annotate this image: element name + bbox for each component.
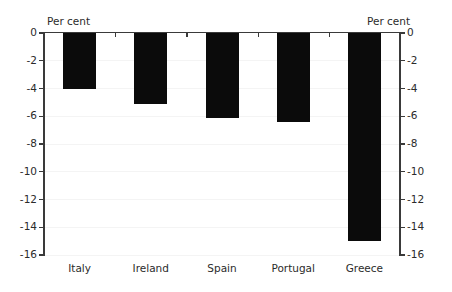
y-axis-tick-right — [401, 171, 405, 172]
category-label-portugal: Portugal — [258, 262, 329, 274]
y-axis-tick-label-left: -4 — [0, 83, 37, 94]
y-axis-tick-right — [401, 88, 405, 89]
y-axis-tick-label-right: -8 — [407, 138, 447, 149]
left-axis-spine — [43, 32, 45, 256]
right-axis-unit-label: Per cent — [367, 15, 410, 27]
y-axis-tick-right — [401, 116, 405, 117]
x-axis-tick — [186, 33, 187, 37]
category-label-greece: Greece — [329, 262, 400, 274]
y-axis-tick-right — [401, 227, 405, 228]
y-axis-tick-label-left: -12 — [0, 194, 37, 205]
y-axis-tick-label-right: -14 — [407, 221, 447, 232]
y-axis-tick-label-right: -2 — [407, 55, 447, 66]
y-axis-tick-label-left: -16 — [0, 249, 37, 260]
category-label-italy: Italy — [44, 262, 115, 274]
bar-italy — [63, 33, 96, 89]
y-axis-tick-label-right: -4 — [407, 83, 447, 94]
left-axis-unit-label: Per cent — [47, 15, 90, 27]
gridline — [44, 171, 400, 172]
category-label-ireland: Ireland — [115, 262, 186, 274]
y-axis-tick-right — [401, 60, 405, 61]
x-axis-tick — [115, 33, 116, 37]
gridline — [44, 144, 400, 145]
y-axis-tick-label-right: -10 — [407, 166, 447, 177]
y-axis-tick-label-right: -6 — [407, 110, 447, 121]
bar-chart: Per cent Per cent 00-2-2-4-4-6-6-8-8-10-… — [0, 0, 452, 292]
y-axis-tick-label-left: -2 — [0, 55, 37, 66]
gridline — [44, 227, 400, 228]
y-axis-tick-label-left: -6 — [0, 110, 37, 121]
y-axis-tick-label-left: -8 — [0, 138, 37, 149]
gridline — [44, 255, 400, 256]
bar-ireland — [134, 33, 167, 104]
right-axis-spine — [399, 32, 401, 256]
x-axis-tick — [329, 33, 330, 37]
y-axis-tick-label-left: 0 — [0, 27, 37, 38]
y-axis-tick-right — [401, 254, 405, 255]
gridline — [44, 199, 400, 200]
bar-portugal — [277, 33, 310, 122]
y-axis-tick-label-left: -14 — [0, 221, 37, 232]
y-axis-tick-label-right: -16 — [407, 249, 447, 260]
y-axis-tick-right — [401, 199, 405, 200]
y-axis-tick-label-left: -10 — [0, 166, 37, 177]
category-label-spain: Spain — [186, 262, 257, 274]
bar-greece — [348, 33, 381, 241]
y-axis-tick-right — [401, 143, 405, 144]
x-axis-tick — [258, 33, 259, 37]
y-axis-tick-label-right: 0 — [407, 27, 447, 38]
bar-spain — [206, 33, 239, 118]
y-axis-tick-right — [401, 32, 405, 33]
y-axis-tick-label-right: -12 — [407, 194, 447, 205]
